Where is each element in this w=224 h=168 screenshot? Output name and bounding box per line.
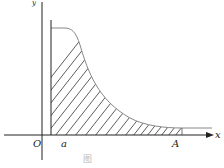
curve <box>51 28 212 128</box>
origin-label: O <box>33 139 41 149</box>
figure-caption: 图 <box>83 155 92 164</box>
upper-bound-label: A <box>172 139 179 149</box>
x-axis-label: x <box>215 130 221 140</box>
x-axis-arrow-icon <box>206 132 214 138</box>
lower-bound-label: a <box>61 139 67 149</box>
hatched-region <box>0 15 224 155</box>
y-axis-label: y <box>32 0 36 7</box>
